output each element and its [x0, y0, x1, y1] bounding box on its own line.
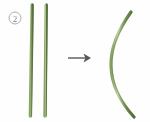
figure-panel: 2 — [0, 0, 150, 122]
panel-label-text: 2 — [13, 14, 18, 24]
figure-canvas: 2 — [0, 0, 150, 122]
